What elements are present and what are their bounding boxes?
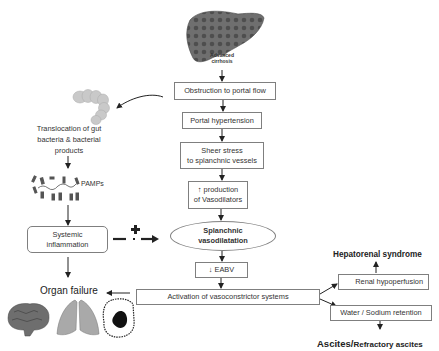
ascites-label: Ascites/Refractory ascites: [317, 333, 423, 351]
heart-image: [103, 299, 134, 337]
brain-image: [8, 304, 49, 336]
portal-hypertension-label: Portal hypertension: [190, 116, 254, 126]
advanced-cirrhosis-caption: Advanced cirrhosis: [200, 52, 244, 64]
splanchnic-vasodilatation-ellipse: Splanchnic vasodilatation: [170, 221, 276, 251]
renal-hypoperfusion-box: Renal hypoperfusion: [338, 274, 429, 290]
obstruction-label: Obstruction to portal flow: [184, 86, 266, 96]
splanchnic-line-1: Splanchnic: [203, 226, 242, 236]
inflammation-line-2: inflammation: [47, 240, 89, 250]
refractory-ascites-text: Refractory ascites: [353, 340, 422, 349]
systemic-inflammation-box: Systemic inflammation: [27, 226, 108, 253]
lungs-image: [57, 300, 99, 335]
curved-arrow-to-gut: [117, 95, 163, 108]
pamps-label: PAMPs: [81, 180, 104, 187]
splanchnic-line-2: vasodilatation: [198, 236, 248, 246]
translocation-line-1: Translocation of gut: [14, 123, 124, 134]
main-chain-arrows: [221, 70, 223, 288]
renal-hypoperfusion-label: Renal hypoperfusion: [355, 277, 423, 287]
activation-label: Activation of vasoconstrictor systems: [167, 292, 288, 302]
vasoconstrictor-activation-box: Activation of vasoconstrictor systems: [136, 289, 320, 305]
hepatorenal-syndrome-label: Hepatorenal syndrome: [333, 250, 422, 259]
colon-image: [73, 90, 110, 125]
sheer-stress-line-2: to splanchnic vessels: [187, 156, 257, 166]
organ-failure-label: Organ failure: [40, 285, 98, 296]
sheer-stress-box: Sheer stress to splanchnic vessels: [180, 142, 264, 169]
vasodilators-line-2: of Vasodilators: [194, 195, 242, 205]
obstruction-portal-flow-box: Obstruction to portal flow: [174, 82, 276, 100]
water-sodium-label: Water / Sodium retention: [340, 308, 421, 318]
water-sodium-retention-box: Water / Sodium retention: [330, 305, 432, 321]
translocation-line-3: products: [14, 145, 124, 156]
bacteria-image: [32, 176, 79, 200]
ascites-text: Ascites/: [317, 338, 353, 349]
vasodilators-production-box: ↑ production of Vasodilators: [188, 181, 248, 209]
eabv-label: ↓ EABV: [209, 265, 234, 275]
portal-hypertension-box: Portal hypertension: [182, 112, 262, 129]
translocation-line-2: bacteria & bacterial: [14, 134, 124, 145]
sheer-stress-line-1: Sheer stress: [201, 146, 243, 156]
left-branch-arrows: [68, 156, 130, 293]
dashed-stimulation-arrow: [113, 225, 159, 243]
caption-line-2: cirrhosis: [200, 58, 244, 64]
translocation-text: Translocation of gut bacteria & bacteria…: [14, 123, 124, 156]
eabv-box: ↓ EABV: [195, 262, 248, 278]
inflammation-line-1: Systemic: [53, 230, 83, 240]
vasodilators-line-1: ↑ production: [198, 185, 238, 195]
